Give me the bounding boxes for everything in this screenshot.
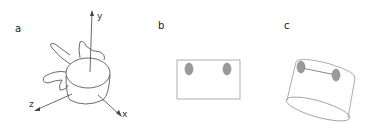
- axis-label-x: x: [122, 109, 128, 119]
- rectangle-diagram: [177, 60, 240, 99]
- marker-right: [332, 69, 340, 81]
- axis-label-z: z: [29, 99, 34, 109]
- marker-left: [185, 63, 193, 75]
- marker-left: [297, 61, 305, 73]
- cylinder-diagram: [284, 59, 355, 125]
- axis-label-y: y: [97, 11, 103, 21]
- figure-canvas: y x z: [0, 0, 374, 129]
- vertebra-drawing: [34, 10, 122, 117]
- marker-right: [223, 63, 231, 75]
